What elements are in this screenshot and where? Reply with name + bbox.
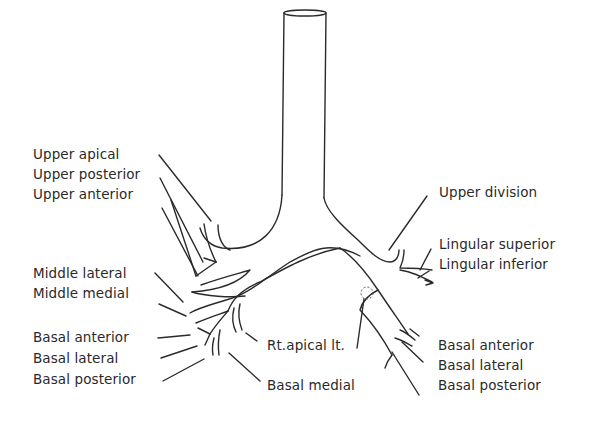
label-rt-apical-lt: Rt.apical lt.	[267, 337, 345, 353]
label-basal-posterior-right: Basal posterior	[438, 377, 541, 393]
label-middle-medial: Middle medial	[33, 285, 129, 301]
label-upper-division: Upper division	[439, 184, 537, 200]
trachea	[282, 10, 326, 198]
leader-lines-left	[155, 155, 211, 381]
label-upper-apical: Upper apical	[33, 146, 119, 162]
label-basal-posterior-left: Basal posterior	[33, 371, 136, 387]
label-basal-lateral-right: Basal lateral	[438, 357, 523, 373]
label-middle-lateral: Middle lateral	[33, 265, 126, 281]
label-lingular-inferior: Lingular inferior	[439, 256, 548, 272]
label-basal-lateral-left: Basal lateral	[33, 350, 118, 366]
bronchial-tree-diagram: Upper apical Upper posterior Upper anter…	[0, 0, 594, 431]
label-basal-anterior-left: Basal anterior	[33, 329, 129, 345]
leader-lines-right	[389, 196, 431, 395]
label-basal-anterior-right: Basal anterior	[438, 337, 534, 353]
label-lingular-superior: Lingular superior	[439, 236, 555, 252]
label-basal-medial: Basal medial	[267, 377, 355, 393]
right-main-bronchus	[171, 195, 360, 355]
label-upper-posterior: Upper posterior	[33, 166, 140, 182]
label-upper-anterior: Upper anterior	[33, 186, 133, 202]
